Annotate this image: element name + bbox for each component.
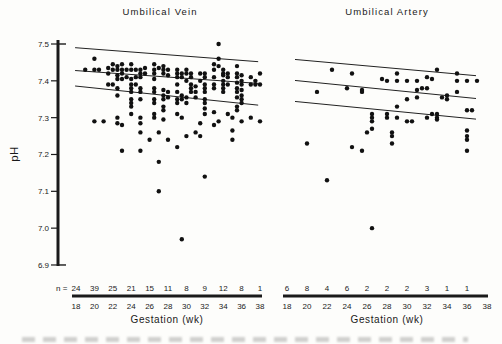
x-tick-label: 26	[363, 302, 372, 311]
data-point	[395, 79, 399, 83]
reference-line-lower-limit	[75, 86, 258, 105]
data-point	[115, 68, 119, 72]
data-point	[184, 101, 188, 105]
data-point	[249, 82, 253, 86]
data-point	[350, 145, 354, 149]
data-point	[161, 97, 165, 101]
data-point	[184, 79, 188, 83]
data-point	[212, 68, 216, 72]
data-point	[212, 62, 216, 66]
data-point	[455, 79, 459, 83]
data-point	[189, 90, 193, 94]
x-tick-label: 26	[145, 302, 154, 311]
x-tick-label: 28	[383, 302, 392, 311]
x-tick-label: 34	[443, 302, 452, 311]
data-point	[226, 75, 230, 79]
data-point	[360, 149, 364, 153]
n-count-value: 2	[365, 284, 370, 293]
y-tick-label: 7.3	[38, 114, 50, 123]
n-count-value: 4	[325, 284, 330, 293]
x-tick-label: 20	[90, 302, 99, 311]
data-point	[212, 110, 216, 114]
data-point	[175, 90, 179, 94]
n-count-value: 1	[445, 284, 450, 293]
data-point	[161, 71, 165, 75]
data-point	[465, 108, 469, 112]
data-point	[175, 145, 179, 149]
data-point	[124, 75, 128, 79]
data-point	[216, 42, 220, 46]
data-point	[120, 71, 124, 75]
data-point	[92, 57, 96, 61]
data-point	[425, 86, 429, 90]
data-point	[138, 130, 142, 134]
x-axis-label-right: Gestation (wk)	[312, 314, 462, 325]
data-point	[152, 77, 156, 81]
data-point	[198, 134, 202, 138]
data-point	[203, 106, 207, 110]
data-point	[350, 71, 354, 75]
data-point	[175, 75, 179, 79]
data-point	[111, 82, 115, 86]
data-point	[129, 104, 133, 108]
data-point	[106, 82, 110, 86]
n-count-value: 1	[258, 284, 263, 293]
data-point	[305, 141, 309, 145]
data-point	[258, 82, 262, 86]
data-point	[180, 115, 184, 119]
n-count-value: 12	[219, 284, 228, 293]
data-point	[226, 82, 230, 86]
data-point	[475, 79, 479, 83]
data-point	[166, 90, 170, 94]
data-point	[239, 73, 243, 77]
data-point	[465, 128, 469, 132]
data-point	[157, 189, 161, 193]
data-point	[92, 119, 96, 123]
reference-line-upper-limit	[75, 48, 258, 62]
data-point	[239, 82, 243, 86]
data-point	[249, 115, 253, 119]
x-tick-label: 24	[343, 302, 352, 311]
x-tick-label: 34	[219, 302, 228, 311]
data-point	[134, 75, 138, 79]
data-point	[435, 68, 439, 72]
data-point	[226, 112, 230, 116]
data-point	[138, 149, 142, 153]
x-tick-label: 22	[108, 302, 117, 311]
data-point	[106, 66, 110, 70]
data-point	[203, 90, 207, 94]
cropped-caption-fragment	[22, 337, 468, 342]
data-point	[410, 119, 414, 123]
data-point	[152, 62, 156, 66]
data-point	[405, 97, 409, 101]
data-point	[395, 104, 399, 108]
data-point	[430, 112, 434, 116]
n-count-value: 25	[108, 284, 117, 293]
data-point	[161, 117, 165, 121]
x-tick-label: 36	[463, 302, 472, 311]
y-tick-label: 6.9	[38, 261, 50, 270]
data-point	[465, 138, 469, 142]
data-point	[129, 68, 133, 72]
data-point	[134, 68, 138, 72]
data-point	[360, 90, 364, 94]
data-point	[203, 174, 207, 178]
data-point	[212, 123, 216, 127]
data-point	[184, 71, 188, 75]
data-point	[152, 115, 156, 119]
data-point	[435, 117, 439, 121]
data-point	[138, 90, 142, 94]
data-point	[138, 121, 142, 125]
data-point	[175, 82, 179, 86]
data-point	[138, 115, 142, 119]
data-point	[193, 95, 197, 99]
data-point	[157, 130, 161, 134]
data-point	[315, 90, 319, 94]
data-point	[235, 95, 239, 99]
data-point	[129, 77, 133, 81]
data-point	[253, 82, 257, 86]
data-point	[129, 90, 133, 94]
data-point	[325, 178, 329, 182]
data-point	[239, 101, 243, 105]
data-point	[230, 115, 234, 119]
